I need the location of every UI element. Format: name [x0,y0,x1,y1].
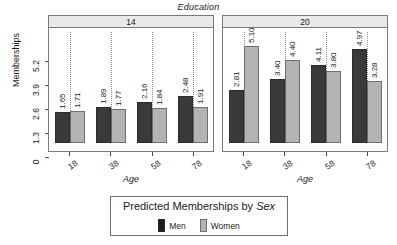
bar-value-label: 5.10 [247,28,256,43]
x-tick-mark [110,152,111,156]
bar-value-label: 3.40 [273,60,282,76]
x-tick-label: 38 [111,155,124,169]
plot-area-20: 2.815.103.404.404.113.804.973.28 [222,28,388,152]
panel-strip-label-20: 20 [222,15,388,28]
panel-education-20: 20 2.815.103.404.404.113.804.973.28 [222,15,388,152]
legend-title: Predicted Memberships by Sex [111,200,287,212]
bar-value-label: 2.81 [232,71,241,87]
legend-item-men: Men [158,219,186,232]
x-tick-mark [193,152,194,156]
y-tick-label: 5.2 [36,66,46,78]
bar-group: 2.161.84 [131,32,172,143]
bar-group: 3.404.40 [264,32,305,143]
x-tick-mark [69,152,70,156]
x-tick-label: 18 [244,155,257,169]
panel-education-14: 14 1.651.711.891.772.161.842.481.91 [48,15,214,152]
x-tick-label: 78 [194,155,207,169]
bar-group: 4.113.80 [305,32,346,143]
bar-value-label: 1.84 [155,90,164,106]
bar-women: 1.84 [152,108,167,143]
legend-swatch-women [200,219,207,232]
bar-group: 1.891.77 [90,32,131,143]
bar-men: 1.65 [55,112,70,143]
bar-value-label: 3.28 [370,62,379,78]
bar-value-label: 1.77 [114,91,123,107]
panel-strip-label-14: 14 [48,15,214,28]
x-tick-label: 38 [285,155,298,169]
bar-women: 1.91 [193,107,208,143]
bar-women: 5.10 [244,46,259,143]
bar-women: 1.71 [70,111,85,143]
legend-label: Men [169,221,186,231]
x-axis-label-left: Age [48,174,214,184]
bar-women: 4.40 [285,60,300,143]
bar-value-label: 1.65 [58,93,67,109]
bar-group: 2.815.10 [223,32,264,143]
bar-women: 3.28 [367,81,382,143]
plot-area-14: 1.651.711.891.772.161.842.481.91 [48,28,214,152]
bar-men: 4.97 [352,49,367,143]
x-tick-mark [284,152,285,156]
x-tick-mark [152,152,153,156]
x-axis-left: Age 18385878 [48,152,214,182]
bar-women: 1.77 [111,109,126,143]
bar-group: 1.651.71 [49,32,90,143]
x-tick-label: 78 [368,155,381,169]
legend-item-women: Women [200,219,240,232]
x-tick-mark [326,152,327,156]
bar-men: 2.16 [137,102,152,143]
bar-value-label: 2.16 [140,83,149,99]
legend: Predicted Memberships by Sex MenWomen [110,196,288,236]
x-axis-label-right: Age [222,174,388,184]
x-tick-mark [367,152,368,156]
bar-group: 4.973.28 [346,32,387,143]
legend-items: MenWomen [111,219,287,232]
bar-women: 3.80 [326,71,341,143]
lattice-bar-chart: Education Memberships 01.32.63.95.2 14 1… [0,0,397,245]
y-tick-label: 3.9 [36,90,46,102]
bar-value-label: 1.89 [99,89,108,105]
bar-value-label: 1.91 [196,88,205,104]
bar-men: 2.81 [229,90,244,143]
y-tick-label: 0 [36,162,46,167]
chart-title: Education [0,2,397,12]
bar-men: 1.89 [96,107,111,143]
x-tick-mark [243,152,244,156]
y-tick-label: 2.6 [36,114,46,126]
legend-title-italic: Sex [256,200,275,212]
y-tick-label: 1.3 [36,138,46,150]
y-axis: 01.32.63.95.2 [14,32,50,152]
legend-label: Women [211,221,240,231]
x-tick-label: 18 [70,155,83,169]
bar-men: 3.40 [270,79,285,144]
bar-value-label: 3.80 [329,52,338,68]
bar-men: 2.48 [178,96,193,143]
bar-value-label: 4.11 [314,47,323,62]
bar-value-label: 1.71 [73,92,82,108]
bar-value-label: 2.48 [181,77,190,93]
legend-swatch-men [158,219,165,232]
x-axis-right: Age 18385878 [222,152,388,182]
bar-value-label: 4.97 [355,30,364,46]
bar-value-label: 4.40 [288,41,297,57]
bar-group: 2.481.91 [172,32,213,143]
x-tick-label: 58 [327,155,340,169]
bar-men: 4.11 [311,65,326,143]
legend-title-main: Predicted Memberships by [123,200,256,212]
x-tick-label: 58 [153,155,166,169]
